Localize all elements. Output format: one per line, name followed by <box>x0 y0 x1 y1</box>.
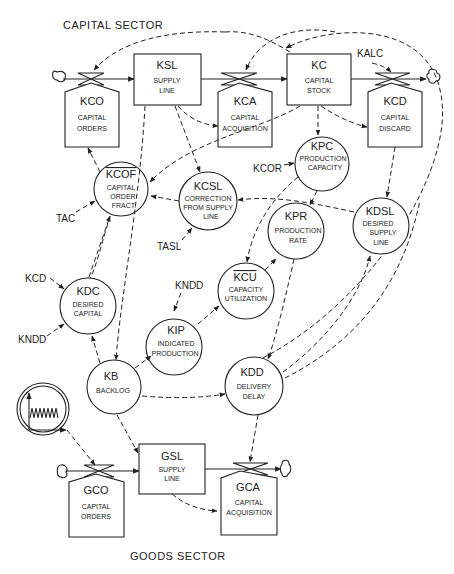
kc-label-1: CAPITAL <box>305 77 334 84</box>
source-cloud-icon <box>53 71 66 82</box>
kdc-label-2: CAPITAL <box>74 310 103 317</box>
kdsl-code: KDSL <box>366 205 395 217</box>
kca-rate-node[interactable]: KCA CAPITAL ACQUISITION <box>218 83 272 147</box>
kcd-label-1: CAPITAL <box>381 114 410 121</box>
kco-label-2: ORDERS <box>77 125 107 132</box>
kpc-label-1: PRODUCTION <box>299 155 346 162</box>
kcsl-aux-node[interactable]: KCSL CORRECTION FROM SUPPLY LINE <box>179 172 237 230</box>
kb-aux-node[interactable]: KB BACKLOG <box>87 360 141 414</box>
kndd-constant-kip: KNDD <box>175 280 203 291</box>
gca-rate-node[interactable]: GCA CAPITAL ACQUISITION <box>221 471 277 535</box>
kpc-label-2: CAPACITY <box>308 164 343 171</box>
gco-label-1: CAPITAL <box>82 503 111 510</box>
kb-code: KB <box>104 370 119 382</box>
kip-aux-node[interactable]: KIP INDICATED PRODUCTION <box>146 319 202 375</box>
kpc-code: KPC <box>311 140 334 152</box>
gsl-label-2: LINE <box>164 475 180 482</box>
gsl-code: GSL <box>161 450 183 462</box>
kca-label-1: CAPITAL <box>231 114 260 121</box>
kcu-code: KCU <box>233 271 256 283</box>
kcd-code: KCD <box>383 95 406 107</box>
kpr-aux-node[interactable]: KPR PRODUCTION RATE <box>268 203 324 259</box>
tasl-constant: TASL <box>157 241 182 252</box>
kdc-aux-node[interactable]: KDC DESIRED CAPITAL <box>60 278 116 334</box>
kca-label-2: ACQUISITION <box>222 125 268 133</box>
kpr-label-1: PRODUCTION <box>274 227 321 234</box>
kip-label-2: PRODUCTION <box>151 350 198 357</box>
gsl-label-1: SUPPLY <box>158 466 185 473</box>
source-cloud-icon <box>57 465 67 478</box>
kip-label-1: INDICATED <box>157 340 194 347</box>
kdsl-label-3: LINE <box>373 239 389 246</box>
gco-code: GCO <box>83 484 109 496</box>
kalc-constant: KALC <box>357 48 383 59</box>
gca-label-1: CAPITAL <box>235 499 264 506</box>
kcof-label-2: ORDER <box>110 193 135 200</box>
ksl-label-2: LINE <box>159 87 175 94</box>
kdsl-aux-node[interactable]: KDSL DESIRED SUPPLY LINE <box>353 198 409 254</box>
kcd-label-2: DISCARD <box>379 125 411 132</box>
kdd-code: KDD <box>240 366 263 378</box>
kcsl-code: KCSL <box>194 180 223 192</box>
gco-rate-node[interactable]: GCO CAPITAL ORDERS <box>69 474 124 537</box>
ksl-code: KSL <box>157 59 178 71</box>
tac-constant: TAC <box>56 213 75 224</box>
kcor-constant: KCOR <box>253 163 282 174</box>
capital-sector-title: CAPITAL SECTOR <box>63 19 163 31</box>
ksl-label-1: SUPPLY <box>153 77 180 84</box>
kdd-label-1: DELIVERY <box>237 383 272 390</box>
kcsl-label-2: FROM SUPPLY <box>183 204 233 211</box>
kdc-code: KDC <box>76 285 99 297</box>
kdsl-label-1: DESIRED <box>362 220 393 227</box>
kdd-label-2: DELAY <box>243 393 266 400</box>
kca-code: KCA <box>234 95 257 107</box>
kco-rate-node[interactable]: KCO CAPITAL ORDERS <box>65 83 119 147</box>
kco-label-1: CAPITAL <box>78 114 107 121</box>
kpr-label-2: RATE <box>289 237 307 244</box>
gca-code: GCA <box>236 481 261 493</box>
kdd-aux-node[interactable]: KDD DELIVERY DELAY <box>225 357 283 415</box>
kpr-code: KPR <box>285 210 308 222</box>
gca-label-2: ACQUISITION <box>226 509 272 517</box>
sink-cloud-icon <box>281 460 291 476</box>
kndd-constant-left: KNDD <box>18 334 46 345</box>
kcof-label-3: FRACT. <box>112 202 137 209</box>
kc-level-node[interactable]: KC CAPITAL STOCK <box>287 54 351 105</box>
kdc-label-1: DESIRED <box>72 301 103 308</box>
kcu-aux-node[interactable]: KCU CAPACITY UTILIZATION <box>218 263 274 319</box>
gco-label-2: ORDERS <box>81 513 111 520</box>
kip-code: KIP <box>167 324 185 336</box>
oscillating-input-icon <box>17 383 69 435</box>
kcof-code: KCOF <box>106 168 137 180</box>
kcu-label-1: CAPACITY <box>229 286 264 293</box>
kcd-rate-node[interactable]: KCD CAPITAL DISCARD <box>368 83 422 147</box>
kc-label-2: STOCK <box>307 87 331 94</box>
kco-code: KCO <box>80 95 104 107</box>
gsl-level-node[interactable]: GSL SUPPLY LINE <box>139 444 205 494</box>
kcof-label-1: CAPITAL <box>107 184 136 191</box>
kcsl-label-3: LINE <box>203 213 219 220</box>
kc-code: KC <box>311 59 326 71</box>
goods-sector-title: GOODS SECTOR <box>130 550 226 562</box>
kcsl-label-1: CORRECTION <box>184 195 231 202</box>
kpc-aux-node[interactable]: KPC PRODUCTION CAPACITY <box>295 137 349 191</box>
kcu-label-2: UTILIZATION <box>225 295 267 302</box>
kcd-constant: KCD <box>25 273 46 284</box>
capital-goods-flow-diagram: CAPITAL SECTOR GOODS SECTOR KCO CAPITAL … <box>0 0 454 574</box>
ksl-level-node[interactable]: KSL SUPPLY LINE <box>134 54 201 105</box>
kdsl-label-2: SUPPLY <box>369 229 396 236</box>
kb-label-1: BACKLOG <box>96 387 130 394</box>
